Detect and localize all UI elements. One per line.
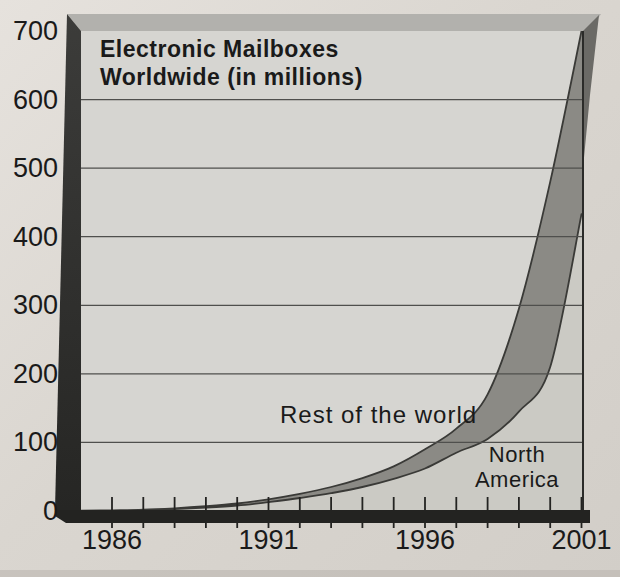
frame-right-bevel bbox=[583, 15, 599, 168]
y-tick-label-200: 200 bbox=[13, 359, 58, 389]
chart-title-line1: Electronic Mailboxes bbox=[100, 36, 339, 62]
y-tick-label-400: 400 bbox=[13, 222, 58, 252]
x-tick-label-1991: 1991 bbox=[238, 525, 298, 555]
chart-canvas: 0100200300400500600700 1986199119962001 … bbox=[0, 0, 620, 577]
frame-left-bevel bbox=[55, 14, 81, 510]
rest-of-world-label: Rest of the world bbox=[280, 401, 477, 428]
x-axis-labels: 1986199119962001 bbox=[82, 525, 612, 555]
x-tick-label-2001: 2001 bbox=[551, 525, 611, 555]
north-america-label-line2: America bbox=[475, 467, 559, 492]
electronic-mailboxes-chart: 0100200300400500600700 1986199119962001 … bbox=[0, 0, 620, 577]
y-tick-label-100: 100 bbox=[13, 427, 58, 457]
y-tick-label-0: 0 bbox=[43, 496, 58, 526]
frame-top-face bbox=[67, 14, 601, 31]
photo-edge-shadow bbox=[0, 570, 620, 577]
y-tick-label-500: 500 bbox=[13, 153, 58, 183]
x-tick-label-1986: 1986 bbox=[82, 525, 142, 555]
north-america-label-line1: North bbox=[489, 442, 545, 467]
y-tick-label-300: 300 bbox=[13, 290, 58, 320]
y-tick-label-600: 600 bbox=[13, 85, 58, 115]
y-axis-labels: 0100200300400500600700 bbox=[13, 16, 58, 526]
x-axis-bar bbox=[55, 510, 590, 523]
x-tick-label-1996: 1996 bbox=[395, 525, 455, 555]
chart-title-line2: Worldwide (in millions) bbox=[100, 64, 363, 90]
y-tick-label-700: 700 bbox=[13, 16, 58, 46]
